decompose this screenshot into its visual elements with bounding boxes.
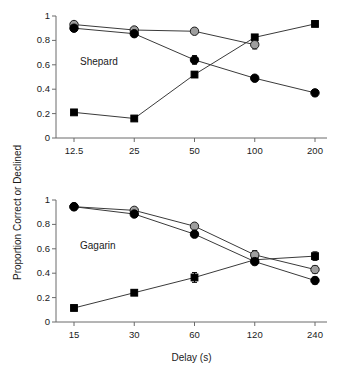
data-point-black-circle — [70, 24, 78, 32]
data-point-black-square — [251, 34, 258, 41]
y-tick-label: 0.4 — [16, 268, 50, 278]
data-point-gray-circle — [251, 40, 259, 48]
data-point-black-circle — [311, 89, 319, 97]
plot-area-gagarin — [56, 200, 327, 322]
x-tick-label: 100 — [230, 146, 280, 156]
data-point-black-square — [312, 21, 319, 28]
data-point-black-square — [312, 253, 319, 260]
x-tick-label: 12.5 — [49, 146, 99, 156]
data-point-black-square — [71, 305, 78, 312]
y-tick-label: 1 — [16, 195, 50, 205]
panel-label-gagarin: Gagarin — [80, 240, 116, 251]
x-tick-label: 50 — [170, 146, 220, 156]
data-point-black-circle — [190, 56, 198, 64]
y-axis-title: Proportion Correct or Declined — [12, 145, 23, 280]
data-point-gray-circle — [311, 265, 319, 273]
data-point-gray-circle — [190, 27, 198, 35]
figure-container: Proportion Correct or Declined Shepard G… — [0, 0, 337, 376]
data-point-black-circle — [130, 29, 138, 37]
series-line-gray-circle — [74, 25, 255, 45]
y-tick-label: 0 — [16, 317, 50, 327]
data-point-black-circle — [130, 210, 138, 218]
y-tick-label: 0.2 — [16, 109, 50, 119]
x-tick-label: 120 — [230, 330, 280, 340]
data-point-black-circle — [190, 230, 198, 238]
y-tick-label: 1 — [16, 11, 50, 21]
x-tick-label: 30 — [109, 330, 159, 340]
plot-area-shepard — [56, 16, 327, 138]
data-point-black-circle — [311, 276, 319, 284]
chart-panel-shepard: Shepard — [56, 16, 327, 138]
x-axis-title: Delay (s) — [56, 352, 327, 363]
y-tick-label: 0.8 — [16, 219, 50, 229]
data-point-black-square — [71, 109, 78, 116]
data-point-black-circle — [251, 257, 259, 265]
x-tick-label: 60 — [170, 330, 220, 340]
x-tick-label: 15 — [49, 330, 99, 340]
data-point-black-circle — [251, 74, 259, 82]
y-tick-label: 0.8 — [16, 35, 50, 45]
data-point-black-square — [191, 71, 198, 78]
chart-panel-gagarin: Gagarin — [56, 200, 327, 322]
x-tick-label: 240 — [290, 330, 337, 340]
y-tick-label: 0 — [16, 133, 50, 143]
y-tick-label: 0.6 — [16, 60, 50, 70]
data-point-black-square — [131, 289, 138, 296]
panel-label-shepard: Shepard — [80, 56, 118, 67]
y-tick-label: 0.2 — [16, 293, 50, 303]
data-point-black-square — [131, 115, 138, 122]
x-tick-label: 25 — [109, 146, 159, 156]
data-point-black-square — [191, 274, 198, 281]
x-tick-label: 200 — [290, 146, 337, 156]
y-tick-label: 0.6 — [16, 244, 50, 254]
y-tick-label: 0.4 — [16, 84, 50, 94]
data-point-black-circle — [70, 203, 78, 211]
data-point-gray-circle — [190, 222, 198, 230]
